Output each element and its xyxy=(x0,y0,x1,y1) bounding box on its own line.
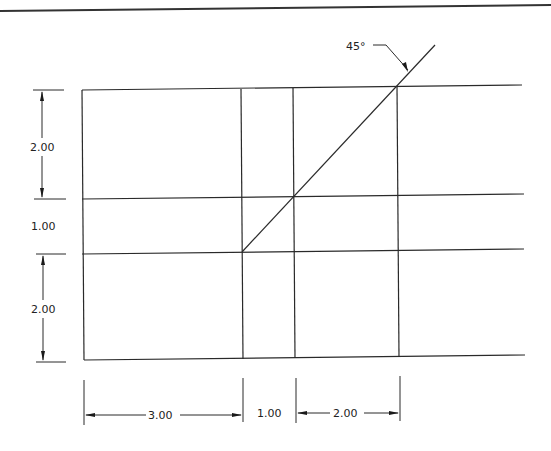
dim-label-2: 2.00 xyxy=(333,407,358,420)
angle-label: 45° xyxy=(346,40,366,53)
top-border xyxy=(0,5,551,11)
dim-label-1: 1.00 xyxy=(257,407,282,420)
arrow-icon xyxy=(85,413,95,417)
dim-label-3: 3.00 xyxy=(148,409,173,422)
vertical-dimension-chain: 2.00 1.00 2.00 xyxy=(30,90,66,362)
angle-annotation: 45° xyxy=(346,40,408,72)
dim-label-top: 2.00 xyxy=(30,141,55,154)
arrow-icon xyxy=(297,411,307,415)
arrow-icon xyxy=(232,413,242,417)
technical-drawing: 45° 2.00 1.00 2.00 xyxy=(0,0,551,451)
vertical-lines xyxy=(82,86,399,360)
arrow-icon xyxy=(40,91,44,101)
dim-label-middle: 1.00 xyxy=(31,220,56,233)
arrow-icon xyxy=(389,411,399,415)
arrow-icon xyxy=(40,188,44,198)
diagonal-line xyxy=(242,45,435,252)
arrow-icon xyxy=(41,351,45,361)
horizontal-dimension-chain: 3.00 1.00 2.00 xyxy=(84,376,400,425)
horizontal-lines xyxy=(82,85,525,360)
dim-label-bottom: 2.00 xyxy=(31,303,56,316)
arrow-icon xyxy=(41,255,45,265)
